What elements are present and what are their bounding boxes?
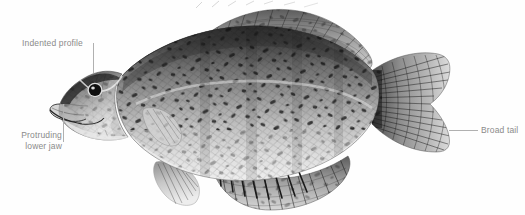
leader-line-indented-profile	[93, 43, 94, 73]
annotation-label-broad-tail: Broad tail	[481, 125, 518, 136]
eye	[87, 83, 102, 97]
annotation-label-line-1: Protruding	[21, 130, 62, 140]
leader-line-broad-tail	[449, 130, 478, 131]
black-crappie-illustration	[0, 0, 525, 215]
annotation-label-indented-profile: Indented profile	[22, 38, 83, 49]
leader-line-protruding-lower-jaw	[63, 104, 64, 142]
dorsal-fin-tips	[196, 1, 318, 8]
annotation-label-line-2: lower jaw	[25, 141, 62, 151]
annotation-label-protruding-lower-jaw: Protruding lower jaw	[4, 130, 62, 151]
figure-canvas: Indented profile Protruding lower jaw Br…	[0, 0, 525, 215]
